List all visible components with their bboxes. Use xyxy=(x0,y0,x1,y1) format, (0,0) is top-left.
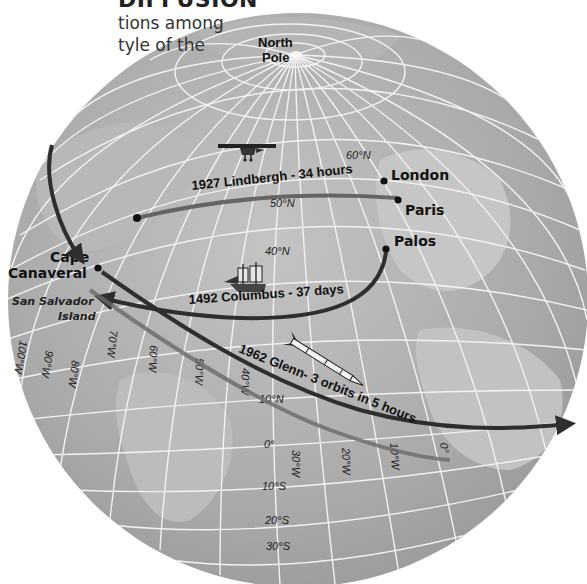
lon-label-0: 0° xyxy=(438,442,451,454)
london-label: London xyxy=(391,167,449,183)
north-pole-marker xyxy=(290,51,302,57)
san-salvador-label-2: Island xyxy=(58,310,96,323)
new-york-dot xyxy=(133,214,141,222)
header-text: DIFFUSION tions among tyle of the xyxy=(0,0,258,56)
palos-label: Palos xyxy=(394,233,436,249)
lon-label-60w: 60°W xyxy=(147,345,160,374)
cape-canaveral-dot xyxy=(94,264,101,271)
section-title: DIFFUSION xyxy=(0,0,258,12)
paris-dot xyxy=(394,196,401,203)
lon-label-20w: 20°W xyxy=(340,447,353,477)
lat-label-60n: 60°N xyxy=(346,149,371,161)
lat-label-30s: 30°S xyxy=(266,540,291,552)
lat-label-0: 0° xyxy=(264,438,275,450)
intro-line-2: tyle of the xyxy=(0,34,258,56)
north-pole-label-2: Pole xyxy=(262,50,289,65)
san-salvador-label-1: San Salvador xyxy=(12,295,94,308)
paris-label: Paris xyxy=(405,202,444,218)
globe-map: North Pole 60°N 50°N 40°N 10°N 0° 10°S 2… xyxy=(0,0,587,584)
palos-dot xyxy=(382,245,389,252)
london-dot xyxy=(380,177,387,184)
north-pole-label-1: North xyxy=(258,35,293,50)
lat-label-20s: 20°S xyxy=(264,514,290,526)
lat-label-40n: 40°N xyxy=(265,245,290,257)
cape-canaveral-label-1: Cape xyxy=(50,249,89,265)
lon-label-10w: 10°W xyxy=(388,442,402,471)
lon-label-30w: 30°W xyxy=(290,450,302,479)
cape-canaveral-label-2: Canaveral xyxy=(8,265,87,281)
intro-line-1: tions among xyxy=(0,12,258,34)
lat-label-10s: 10°S xyxy=(262,480,287,492)
